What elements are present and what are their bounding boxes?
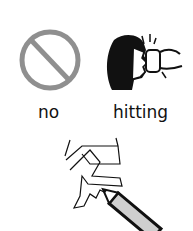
hitting-label: hitting (113, 104, 168, 121)
no-label: no (38, 104, 59, 121)
pencil-scribble-icon (60, 136, 170, 231)
prohibition-icon (14, 28, 86, 92)
hitting-face-icon (104, 32, 184, 94)
